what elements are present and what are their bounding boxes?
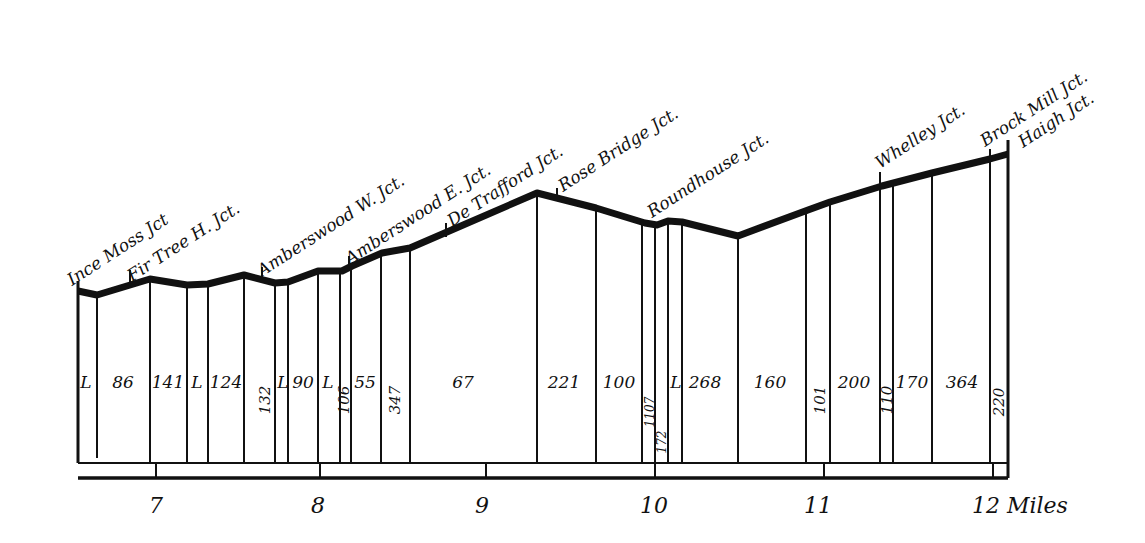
gradient-label: L [276, 372, 288, 392]
gradient-label: L [79, 372, 91, 392]
gradient-label: 221 [547, 372, 580, 392]
mile-scale-bar [78, 463, 1008, 478]
gradient-label: 124 [210, 372, 242, 392]
gradient-label: 55 [354, 372, 376, 392]
gradient-label: 200 [837, 372, 871, 392]
mile-label: 10 [640, 493, 668, 518]
gradient-label: 170 [896, 372, 929, 392]
gradient-label: 364 [946, 372, 978, 392]
gradient-label: 220 [990, 387, 1008, 417]
gradient-label: L [321, 372, 333, 392]
mile-label: 8 [311, 493, 325, 518]
gradient-label: 160 [754, 372, 787, 392]
gradient-label: 106 [335, 385, 353, 414]
gradient-label: 172 [655, 431, 669, 454]
junction-label: Whelley Jct. [871, 99, 968, 172]
gradient-label: L [669, 372, 681, 392]
mile-label: 7 [149, 493, 163, 518]
gradient-label: 347 [386, 385, 404, 414]
gradient-profile-diagram: Ince Moss Jct Fir Tree H. Jct. Amberswoo… [0, 0, 1145, 543]
gradient-label: 141 [152, 372, 184, 392]
gradient-label: 100 [603, 372, 636, 392]
mile-label: 9 [475, 493, 489, 518]
gradient-label: 101 [811, 386, 829, 415]
mile-label: 11 [804, 493, 832, 518]
gradient-label: 1107 [643, 396, 657, 427]
gradient-label: 268 [688, 372, 722, 392]
gradient-label: L [190, 372, 202, 392]
gradient-label: 86 [112, 372, 134, 392]
mile-labels: 7 8 9 10 11 12 Miles [149, 493, 1068, 518]
gradient-labels: L 86 141 L 124 132 L 90 L 106 55 347 67 … [79, 372, 1008, 453]
junction-labels: Ince Moss Jct Fir Tree H. Jct. Amberswoo… [62, 66, 1097, 290]
gradient-label: 90 [292, 372, 314, 392]
junction-label: Rose Bridge Jct. [553, 103, 681, 196]
gradient-label: 110 [878, 385, 896, 414]
gradient-label: 132 [256, 386, 274, 415]
junction-label: Roundhouse Jct. [642, 128, 772, 222]
mile-label: 12 Miles [972, 493, 1068, 518]
gradient-label: 67 [452, 372, 474, 392]
